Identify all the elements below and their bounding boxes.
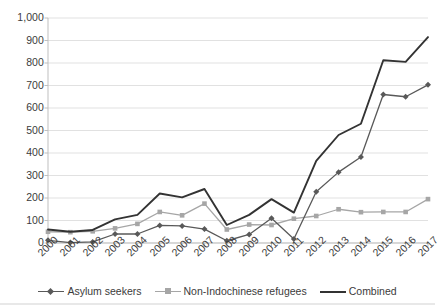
legend-marker-square-icon <box>165 288 171 294</box>
data-point-marker <box>202 201 207 206</box>
data-point-marker <box>380 92 386 98</box>
data-point-marker <box>269 223 274 228</box>
data-point-marker <box>112 231 118 237</box>
data-point-marker <box>381 210 386 215</box>
data-point-marker <box>90 239 96 245</box>
data-point-marker <box>134 231 140 237</box>
data-point-marker <box>403 210 408 215</box>
data-point-marker <box>135 222 140 227</box>
chart-legend: Asylum seekersNon-Indochinese refugeesCo… <box>0 282 435 300</box>
data-point-marker <box>113 226 118 231</box>
data-point-marker <box>157 222 163 228</box>
series-asylum-seekers <box>45 82 431 246</box>
legend-swatch-icon <box>155 286 181 297</box>
data-point-marker <box>45 237 51 243</box>
legend-item-label: Asylum seekers <box>67 285 141 297</box>
legend-item-label: Combined <box>349 285 397 297</box>
x-axis-ticks <box>48 243 428 247</box>
legend-item[interactable]: Combined <box>320 285 397 297</box>
legend-marker-diamond-icon <box>47 287 54 294</box>
data-point-marker <box>247 222 252 227</box>
legend-item-label: Non-Indochinese refugees <box>184 285 307 297</box>
legend-item[interactable]: Asylum seekers <box>38 285 141 297</box>
series-line <box>48 37 428 232</box>
series-non-indochinese-refugees <box>46 197 431 235</box>
data-point-marker <box>359 210 364 215</box>
series-combined <box>48 37 428 232</box>
data-point-marker <box>425 82 431 88</box>
data-point-marker <box>180 213 185 218</box>
data-point-marker <box>292 216 297 221</box>
series-line <box>48 85 428 243</box>
data-point-marker <box>225 227 230 232</box>
legend-swatch-icon <box>38 286 64 297</box>
legend-item[interactable]: Non-Indochinese refugees <box>155 285 307 297</box>
data-point-marker <box>336 207 341 212</box>
data-point-marker <box>201 226 207 232</box>
data-point-marker <box>426 197 431 202</box>
data-point-marker <box>157 210 162 215</box>
legend-swatch-icon <box>320 286 346 297</box>
data-point-marker <box>179 223 185 229</box>
series-line <box>48 199 428 232</box>
data-series-layer <box>45 37 431 245</box>
data-point-marker <box>403 94 409 100</box>
data-point-marker <box>314 214 319 219</box>
legend-line-icon <box>320 291 346 293</box>
data-point-marker <box>67 240 73 246</box>
